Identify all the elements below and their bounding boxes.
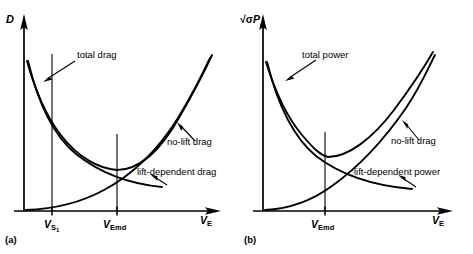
caption-a: (a) [5,234,17,245]
caption-b: (b) [244,234,256,245]
y-axis-b [259,14,267,211]
figure-container: D total drag no-lift drag lift-dependent… [0,0,473,254]
y-axis-a [20,14,28,211]
tick-label-vemd-a-sub: Emd [110,223,126,232]
tick-label-vemd-b-main: V [311,218,318,230]
tick-label-vemd-b: VEmd [311,218,334,230]
x-axis-label-a-main: V [200,214,207,226]
label-lift-dependent-drag: lift-dependent drag [137,167,216,177]
label-total-power: total power [302,50,348,60]
y-axis-label-b-var: P [253,13,260,25]
x-axis-label-b: VE [432,214,444,226]
label-no-lift-drag-b: no-lift drag [391,136,436,146]
tick-label-vemd-a: VEmd [103,218,126,230]
x-axis-label-b-main: V [432,214,439,226]
arrowhead-total-power [285,76,295,81]
tick-label-vs1-main: V [44,218,51,230]
x-axis-label-b-sub: E [439,219,444,228]
panel-a: D total drag no-lift drag lift-dependent… [0,0,236,254]
leader-total-power [289,60,316,78]
arrowhead-total-drag [43,77,53,82]
curve-total-drag [27,55,212,170]
arrowhead-no-lift-drag-b [402,120,408,129]
tick-label-vs1-subsub: 1 [56,227,59,233]
y-axis-label-b-var-sub: r [260,22,263,29]
curve-no-lift-drag [26,58,210,210]
panel-b: √σPr total power no-lift drag lift-depen… [236,0,473,254]
y-axis-label-b-radical: √σ [240,13,253,25]
y-axis-label-a: D [6,14,14,25]
y-axis-label-b: √σPr [240,13,263,27]
tick-label-vemd-a-main: V [103,218,110,230]
x-axis-label-a-sub: E [207,219,212,228]
leader-total-drag [47,61,75,79]
tick-label-vemd-b-sub: Emd [318,223,334,232]
label-total-drag: total drag [77,50,117,60]
tick-label-vs1: VS1 [44,218,59,230]
label-no-lift-drag: no-lift drag [167,137,212,147]
x-axis-label-a: VE [200,214,212,226]
label-lift-dependent-power: lift-dependent power [354,167,440,177]
arrowhead-no-lift-drag [177,122,183,131]
